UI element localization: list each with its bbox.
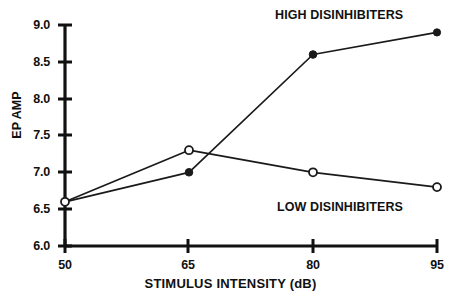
x-tick-label: 95 (417, 258, 457, 272)
series-high-line (65, 32, 437, 201)
series-label-high-disinhibiters: HIGH DISINHIBITERS (275, 8, 403, 22)
chart-figure: 9.0 8.5 8.0 7.5 7.0 6.5 6.0 50 65 80 95 … (0, 0, 461, 300)
data-point-low (61, 198, 69, 206)
data-point-low (433, 183, 441, 191)
y-axis-title: EP AMP (10, 80, 24, 150)
x-tick-label: 65 (168, 258, 208, 272)
series-low-line (65, 150, 437, 202)
y-tick-label: 9.0 (16, 18, 50, 32)
data-point-high (433, 29, 440, 36)
x-axis-title: STIMULUS INTENSITY (dB) (0, 276, 461, 291)
y-tick-label: 6.0 (16, 239, 50, 253)
data-point-high (185, 169, 193, 177)
y-tick-label: 8.5 (16, 55, 50, 69)
x-tick-label: 80 (293, 258, 333, 272)
series-label-low-disinhibiters: LOW DISINHIBITERS (277, 200, 403, 214)
y-tick-label: 6.5 (16, 202, 50, 216)
series-low-disinhibiters (61, 146, 441, 206)
data-point-high (309, 51, 317, 59)
data-point-low (185, 146, 193, 154)
x-tick-label: 50 (45, 258, 85, 272)
data-point-low (309, 168, 317, 176)
y-tick-label: 7.0 (16, 165, 50, 179)
plot-area (0, 0, 461, 300)
